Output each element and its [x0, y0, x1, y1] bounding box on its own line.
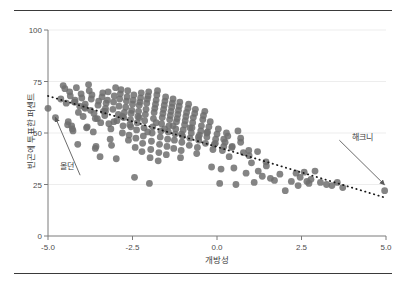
- data-point: [85, 81, 92, 88]
- data-point: [276, 171, 283, 178]
- data-point: [73, 84, 80, 91]
- x-tick-label: 5.0: [380, 243, 391, 252]
- data-point: [97, 119, 104, 126]
- data-point: [107, 125, 114, 132]
- data-point: [122, 104, 129, 111]
- data-point: [139, 148, 146, 155]
- annotation-label-malden: 몰던: [60, 160, 74, 171]
- data-point: [218, 166, 225, 173]
- data-point: [146, 180, 153, 187]
- data-point: [74, 141, 81, 148]
- data-point: [178, 131, 185, 138]
- data-point: [198, 122, 205, 129]
- data-point: [186, 142, 193, 149]
- data-point: [107, 136, 114, 143]
- data-point: [90, 129, 97, 136]
- data-point: [220, 136, 227, 143]
- data-point: [92, 115, 99, 122]
- data-point: [132, 144, 139, 151]
- data-point: [215, 125, 222, 132]
- data-point: [105, 88, 112, 95]
- data-point: [148, 138, 155, 145]
- data-point: [120, 122, 127, 129]
- data-point: [110, 99, 117, 106]
- data-point: [295, 182, 302, 189]
- data-point: [164, 136, 171, 143]
- data-point: [162, 94, 169, 101]
- data-point: [381, 187, 388, 194]
- data-point: [155, 157, 162, 164]
- data-point: [131, 174, 138, 181]
- x-tick-label: 2.5: [296, 243, 307, 252]
- data-point: [229, 143, 236, 150]
- data-point: [207, 118, 214, 125]
- data-point: [202, 140, 209, 147]
- data-point: [128, 107, 135, 114]
- data-point: [178, 139, 185, 146]
- data-point: [233, 181, 240, 188]
- data-point: [93, 143, 100, 150]
- data-point: [113, 155, 120, 162]
- data-point: [216, 180, 223, 187]
- data-point: [57, 96, 64, 103]
- data-point: [45, 105, 52, 112]
- data-point: [308, 176, 315, 183]
- data-point: [251, 179, 258, 186]
- data-point: [235, 128, 242, 135]
- data-point: [110, 106, 117, 113]
- data-point: [156, 141, 163, 148]
- data-point: [124, 87, 131, 94]
- data-point: [288, 178, 295, 185]
- data-point: [70, 128, 77, 135]
- y-tick-label: 0: [18, 232, 42, 241]
- data-point: [163, 151, 170, 158]
- data-point: [170, 96, 177, 103]
- data-point: [301, 169, 308, 176]
- data-point: [132, 135, 139, 142]
- data-point: [119, 130, 126, 137]
- data-point: [176, 99, 183, 106]
- data-point: [177, 154, 184, 161]
- y-axis-title: 빈곤에 투표한 퍼센트: [24, 71, 36, 191]
- data-point: [178, 147, 185, 154]
- data-point: [317, 179, 324, 186]
- data-point: [111, 118, 118, 125]
- data-point: [259, 173, 266, 180]
- data-point: [201, 108, 208, 115]
- data-point: [97, 153, 104, 160]
- data-point: [208, 164, 215, 171]
- data-point: [126, 132, 133, 139]
- data-point: [157, 134, 164, 141]
- x-axis-title: 개방성: [205, 253, 229, 265]
- data-point: [135, 108, 142, 115]
- data-point: [116, 103, 123, 110]
- data-point: [127, 123, 134, 130]
- data-point: [248, 159, 255, 166]
- data-point: [231, 165, 238, 172]
- data-point: [80, 113, 87, 120]
- data-point: [138, 89, 145, 96]
- data-point: [133, 127, 140, 134]
- data-point: [203, 130, 210, 137]
- data-point: [147, 154, 154, 161]
- x-tick-label: -5.0: [41, 243, 55, 252]
- scatter-plot-figure: -5.0-2.50.02.55.0 0255075100 개방성 빈곤에 투표한…: [0, 0, 406, 289]
- data-point: [187, 124, 194, 131]
- data-point: [147, 146, 154, 153]
- data-point: [237, 139, 244, 146]
- annotation-leader-line: [339, 140, 384, 184]
- data-point: [84, 123, 91, 130]
- data-point: [153, 119, 160, 126]
- data-point: [155, 149, 162, 156]
- data-point: [78, 95, 85, 102]
- data-point: [171, 137, 178, 144]
- data-point: [254, 148, 261, 155]
- data-point: [136, 114, 143, 121]
- data-point: [154, 87, 161, 94]
- data-point: [170, 122, 177, 129]
- data-point: [130, 91, 137, 98]
- data-point: [118, 86, 125, 93]
- data-point: [164, 143, 171, 150]
- plot-canvas: [0, 0, 406, 289]
- data-point: [282, 187, 289, 194]
